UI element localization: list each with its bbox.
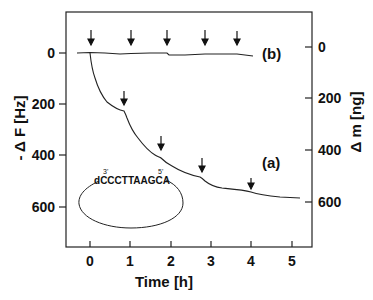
series-b-line <box>77 53 253 57</box>
down-arrow-icon <box>88 30 94 45</box>
oligo-3prime-label: 3' <box>103 168 108 175</box>
y-left-tick-label: 200 <box>32 96 56 112</box>
down-arrow-icon <box>158 136 164 150</box>
down-arrow-icon <box>248 178 254 189</box>
y-left-tick-label: 0 <box>47 45 55 61</box>
y-axis-right-title: Δ m [ng] <box>347 92 364 153</box>
down-arrow-icon <box>128 30 134 45</box>
down-arrow-icon <box>202 30 208 45</box>
y-axis-left <box>59 53 66 207</box>
y-right-tick-label: 600 <box>318 194 342 210</box>
series-b-label: (b) <box>262 45 281 62</box>
y-right-tick-label: 400 <box>318 142 342 158</box>
oligo-sequence: dCCCTTAAGCA <box>94 175 170 186</box>
down-arrow-icon <box>234 31 240 45</box>
x-tick-label: 5 <box>288 253 296 269</box>
down-arrow-icon <box>121 91 127 105</box>
injection-arrows-b <box>88 30 240 45</box>
x-tick-label: 0 <box>86 253 94 269</box>
series-a-label: (a) <box>262 154 280 171</box>
x-tick-label: 1 <box>126 253 134 269</box>
chart: 0 1 2 3 4 5 Time [h] 0 200 400 600 - Δ F… <box>0 0 373 300</box>
y-right-tick-labels: 0 200 400 600 <box>318 39 342 210</box>
x-tick-label: 4 <box>247 253 255 269</box>
down-arrow-icon <box>199 158 205 172</box>
y-axis-right <box>305 47 312 202</box>
x-tick-labels: 0 1 2 3 4 5 <box>86 253 296 269</box>
x-tick-label: 3 <box>207 253 215 269</box>
oligo-loop-shape <box>79 180 183 228</box>
down-arrow-icon <box>164 30 170 45</box>
oligo-5prime-label: 5' <box>158 168 163 175</box>
y-axis-left-title: - Δ F [Hz] <box>11 95 28 160</box>
x-tick-label: 2 <box>167 253 175 269</box>
y-right-tick-label: 0 <box>318 39 326 55</box>
x-axis-title: Time [h] <box>135 273 193 290</box>
x-axis <box>90 241 292 247</box>
y-left-tick-label: 400 <box>32 147 56 163</box>
oligo-loop-inset: dCCCTTAAGCA 3' 5' <box>79 168 183 228</box>
y-left-tick-label: 600 <box>32 199 56 215</box>
y-left-tick-labels: 0 200 400 600 <box>32 45 56 215</box>
y-right-tick-label: 200 <box>318 90 342 106</box>
